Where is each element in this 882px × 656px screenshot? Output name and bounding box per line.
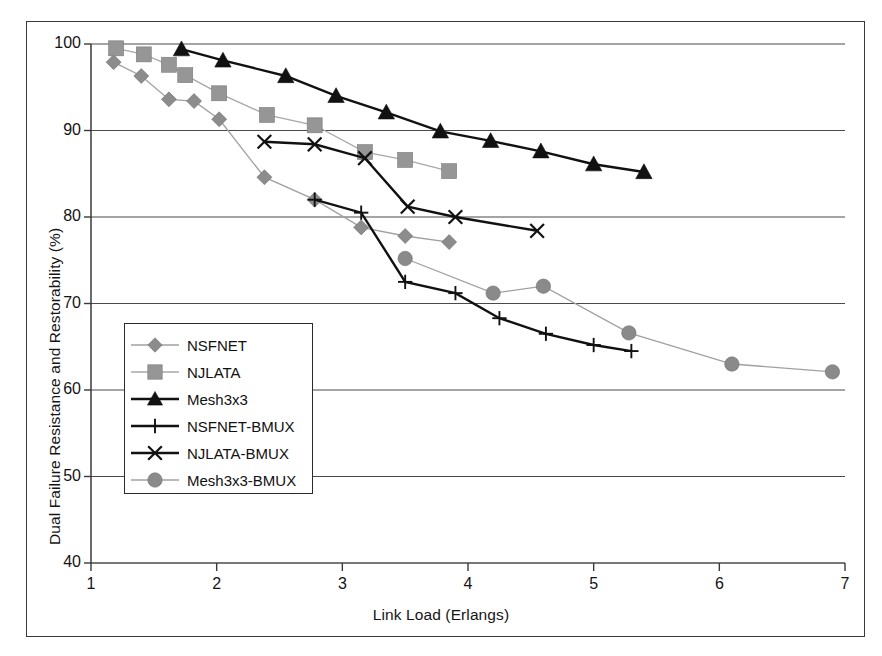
x-tick-label-6: 6 <box>699 575 739 593</box>
legend-marker-square-icon <box>125 358 185 386</box>
datapoint-diamond <box>212 112 227 127</box>
datapoint-circle <box>825 365 839 379</box>
legend-item-njlata: NJLATA <box>125 358 314 386</box>
datapoint-circle <box>536 279 550 293</box>
legend-label: NSFNET-BMUX <box>185 419 295 434</box>
y-tick-label-100: 100 <box>35 34 81 52</box>
x-tick-label-4: 4 <box>448 575 488 593</box>
datapoint-circle <box>486 286 500 300</box>
datapoint-square <box>398 152 413 167</box>
datapoint-circle <box>398 251 412 265</box>
legend-item-njlata-bmux: NJLATA-BMUX <box>125 439 314 467</box>
legend-marker-diamond-icon <box>125 331 185 359</box>
datapoint-square <box>136 47 151 62</box>
y-tick-label-80: 80 <box>35 207 81 225</box>
x-tick-label-7: 7 <box>825 575 865 593</box>
datapoint-plus <box>448 286 462 300</box>
datapoint-square <box>212 86 227 101</box>
legend-item-nsfnet: NSFNET <box>125 331 314 359</box>
datapoint-plus <box>624 344 638 358</box>
legend-label: NJLATA <box>185 365 241 380</box>
datapoint-diamond <box>257 170 272 185</box>
series-njlata <box>109 41 457 179</box>
legend-marker-plus-icon <box>125 412 185 440</box>
datapoint-square <box>161 57 176 72</box>
datapoint-diamond <box>106 55 121 70</box>
legend-label: Mesh3x3-BMUX <box>185 473 296 488</box>
datapoint-triangle <box>173 41 189 56</box>
x-tick-label-5: 5 <box>574 575 614 593</box>
x-tick-label-1: 1 <box>71 575 111 593</box>
legend-item-mesh3x3-bmux: Mesh3x3-BMUX <box>125 466 314 494</box>
legend-label: NJLATA-BMUX <box>185 446 289 461</box>
x-tick-label-3: 3 <box>322 575 362 593</box>
legend-label: Mesh3x3 <box>185 392 248 407</box>
datapoint-square <box>307 118 322 133</box>
datapoint-diamond <box>187 94 202 109</box>
x-tick-label-2: 2 <box>197 575 237 593</box>
series-njlata-bmux <box>258 135 544 238</box>
y-tick-label-40: 40 <box>35 553 81 571</box>
datapoint-square <box>259 107 274 122</box>
legend-item-mesh3x3: Mesh3x3 <box>125 385 314 413</box>
legend-marker-circle-icon <box>125 466 185 494</box>
datapoint-diamond <box>398 229 413 244</box>
datapoint-square <box>178 68 193 83</box>
y-tick-label-90: 90 <box>35 121 81 139</box>
legend-label: NSFNET <box>185 338 247 353</box>
y-axis-title-wrapper: Dual Failure Resistance and Restorabilit… <box>0 0 40 600</box>
series-mesh3x3-bmux <box>398 251 840 379</box>
datapoint-circle <box>725 357 739 371</box>
legend-marker-cross-icon <box>125 439 185 467</box>
datapoint-plus <box>587 338 601 352</box>
datapoint-triangle <box>328 88 344 103</box>
y-axis-title: Dual Failure Resistance and Restorabilit… <box>46 228 64 545</box>
legend-marker-triangle-icon <box>125 385 185 413</box>
datapoint-diamond <box>442 235 457 250</box>
datapoint-circle <box>622 326 636 340</box>
datapoint-plus <box>492 311 506 325</box>
x-axis-title: Link Load (Erlangs) <box>0 606 882 624</box>
figure-container: 405060708090100 1234567 Dual Failure Res… <box>0 0 882 656</box>
datapoint-plus <box>308 193 322 207</box>
chart-legend: NSFNETNJLATAMesh3x3NSFNET-BMUXNJLATA-BMU… <box>124 323 313 494</box>
legend-item-nsfnet-bmux: NSFNET-BMUX <box>125 412 314 440</box>
datapoint-plus <box>354 206 368 220</box>
datapoint-plus <box>398 275 412 289</box>
datapoint-plus <box>539 327 553 341</box>
datapoint-square <box>442 164 457 179</box>
datapoint-square <box>109 41 124 56</box>
